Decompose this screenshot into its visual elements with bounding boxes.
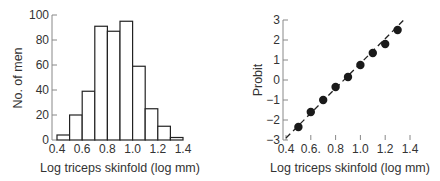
right-x-tick-label: 0.8: [327, 142, 344, 156]
right-y-tick-label: 3: [273, 13, 280, 27]
histogram-bar: [107, 31, 120, 140]
left-x-tick-label: 1.0: [124, 142, 141, 156]
histogram-bar: [70, 115, 83, 140]
histogram-bars: [57, 21, 183, 140]
probit-points: [294, 26, 402, 131]
left-y-tick-label: 60: [36, 58, 50, 72]
left-y-axis-label: No. of men: [11, 47, 25, 108]
probit-data-point: [344, 73, 352, 81]
histogram-bar: [95, 26, 108, 140]
right-y-tick-label: −2: [266, 113, 280, 127]
left-x-tick-label: 1.2: [149, 142, 166, 156]
histogram-bar: [120, 21, 133, 140]
left-y-ticks: 020406080100: [29, 8, 57, 147]
probit-chart: −3−2−10123 0.40.6.0.81.01.21.4 Probit Lo…: [251, 13, 430, 175]
right-y-tick-label: 0: [273, 73, 280, 87]
left-x-tick-label: 0.4: [49, 142, 66, 156]
histogram-bar: [82, 91, 95, 140]
right-y-axis-label: Probit: [251, 63, 265, 96]
histogram-bar: [170, 138, 183, 141]
probit-data-point: [294, 123, 302, 131]
figure: 020406080100 0.40.60.81.01.21.4 No. of m…: [0, 0, 440, 181]
left-x-tick-label: 0.6: [74, 142, 91, 156]
right-y-tick-label: −1: [266, 93, 280, 107]
probit-data-point: [393, 26, 401, 34]
probit-data-point: [369, 49, 377, 57]
left-y-tick-label: 80: [36, 33, 50, 47]
right-x-tick-label: 1.0: [352, 142, 369, 156]
left-x-axis-label: Log triceps skinfold (log mm): [40, 161, 200, 175]
probit-data-point: [319, 96, 327, 104]
left-x-ticks: 0.40.60.81.01.21.4: [49, 142, 192, 156]
right-x-tick-label: 0.6.: [301, 142, 321, 156]
left-y-tick-label: 20: [36, 108, 50, 122]
right-x-ticks: 0.40.6.0.81.01.21.4: [278, 135, 419, 156]
histogram-bar: [133, 66, 146, 140]
left-y-tick-label: 100: [29, 8, 49, 22]
histogram-chart: 020406080100 0.40.60.81.01.21.4 No. of m…: [11, 8, 200, 175]
left-y-tick-label: 40: [36, 83, 50, 97]
probit-data-point: [381, 40, 389, 48]
right-y-ticks: −3−2−10123: [266, 13, 288, 147]
right-x-tick-label: 1.2: [377, 142, 394, 156]
histogram-bar: [145, 109, 158, 140]
probit-data-point: [356, 61, 364, 69]
histogram-bar: [158, 126, 171, 140]
probit-data-point: [331, 83, 339, 91]
left-x-tick-label: 0.8: [99, 142, 116, 156]
right-x-tick-label: 0.4: [278, 142, 295, 156]
right-x-axis-label: Log triceps skinfold (log mm): [270, 161, 430, 175]
right-x-tick-label: 1.4: [402, 142, 419, 156]
histogram-bar: [57, 135, 70, 140]
left-x-tick-label: 1.4: [175, 142, 192, 156]
right-y-tick-label: 2: [273, 33, 280, 47]
probit-data-point: [307, 108, 315, 116]
right-y-tick-label: 1: [273, 53, 280, 67]
